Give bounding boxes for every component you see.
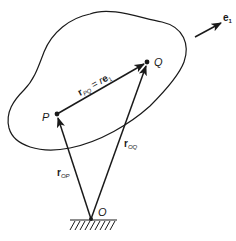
point-o-label: O — [98, 206, 107, 218]
rigid-body-position-vector-diagram: e1 rPQ = re1 rOP rOQ P Q O — [0, 0, 236, 241]
fixed-ground-hatch — [70, 220, 117, 230]
vector-r-oq-label: rOQ — [124, 138, 138, 150]
vector-r-op-label: rOP — [57, 167, 70, 179]
unit-vector-e1-arrow — [195, 23, 221, 37]
point-p-dot — [55, 112, 60, 117]
point-q-label: Q — [154, 56, 163, 68]
point-p-label: P — [42, 111, 50, 123]
unit-vector-e1-label: e1 — [223, 12, 233, 24]
vector-r-op-arrow — [58, 118, 91, 219]
point-q-dot — [145, 60, 150, 65]
